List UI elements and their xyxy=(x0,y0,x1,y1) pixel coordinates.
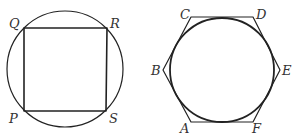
square-in-circle-figure: Q R P S xyxy=(7,11,123,127)
vertex-label-q: Q xyxy=(9,16,20,31)
vertex-label-p: P xyxy=(8,111,18,126)
square-pqrs xyxy=(24,28,107,111)
vertex-label-s: S xyxy=(109,111,118,126)
vertex-label-a: A xyxy=(179,121,189,136)
vertex-label-e: E xyxy=(281,63,292,78)
vertex-label-f: F xyxy=(251,121,262,136)
vertex-label-b: B xyxy=(150,63,161,78)
circle-in-hexagon-figure: C D B E A F xyxy=(150,7,292,136)
diagram-canvas: Q R P S C D B E A F xyxy=(0,0,292,138)
hexagon-abcdef xyxy=(163,17,280,122)
vertex-label-c: C xyxy=(180,7,190,22)
vertex-label-d: D xyxy=(255,7,267,22)
vertex-label-r: R xyxy=(109,16,120,31)
inscribed-circle xyxy=(170,18,274,122)
